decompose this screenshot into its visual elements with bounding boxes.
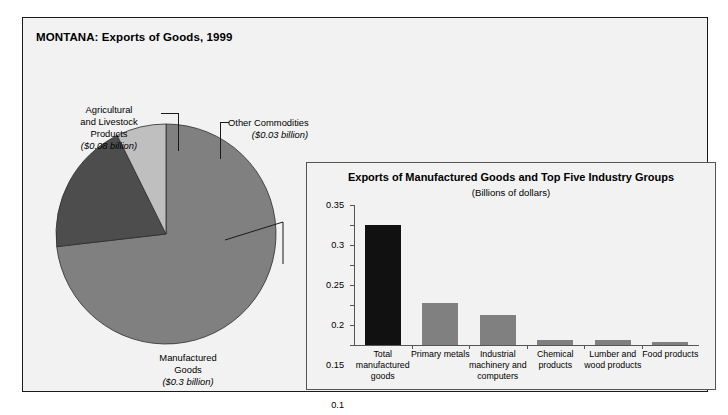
pie-label-manufactured-line1: Manufactured [159,352,216,363]
plot-area: 00.050.10.150.20.250.30.35 [354,205,699,345]
y-tick-label: 0.25 [326,280,344,290]
y-tick-label: 0.1 [331,400,344,410]
y-tick-label: 0.15 [326,360,344,370]
x-axis-label-line: Food products [642,349,698,359]
x-axis-label-line: products [538,360,572,370]
bar [365,225,401,345]
callout-connector [223,208,293,278]
inset-bar-chart: Exports of Manufactured Goods and Top Fi… [306,162,716,390]
pie-label-manufactured-line2: Goods [174,364,202,375]
x-axis-labels: TotalmanufacturedgoodsPrimary metalsIndu… [354,349,699,387]
x-axis-label-line: Industrial [480,349,516,359]
page-title: MONTANA: Exports of Goods, 1999 [36,31,233,43]
bar-series [354,205,699,345]
x-axis-label-line: Lumber and [589,349,636,359]
pie-label-other: Other Commodities ($0.03 billion) [228,117,344,141]
pie-label-agricultural-line3: Products [91,128,128,139]
y-tick-label: 0.35 [326,200,344,210]
pie-label-agricultural-line1: Agricultural [86,104,133,115]
x-axis-label-line: computers [477,371,518,381]
pie-label-agricultural-line2: and Livestock [80,116,137,127]
x-axis-label-line: Primary metals [411,349,470,359]
figure-root: MONTANA: Exports of Goods, 1999 Agricult… [0,0,728,415]
x-axis-label-line: goods [371,371,395,381]
bar [422,303,458,345]
pie-label-manufactured-value: ($0.3 billion) [121,376,255,388]
pie-label-other-value: ($0.03 billion) [228,129,332,141]
y-tick-label: 0.3 [331,240,344,250]
y-tick-label: 0.2 [331,320,344,330]
pie-label-agricultural: Agricultural and Livestock Products ($0.… [57,104,161,152]
pie-label-manufactured: Manufactured Goods ($0.3 billion) [121,352,255,388]
inset-chart-title: Exports of Manufactured Goods and Top Fi… [307,171,715,183]
x-axis-label-line: Total [373,349,392,359]
x-axis-label-line: machinery and [469,360,527,370]
pie-label-agricultural-value: ($0.08 billion) [57,140,161,152]
inset-chart-subtitle: (Billions of dollars) [307,187,715,198]
x-axis-label-line: manufactured [356,360,410,370]
bar [480,315,516,345]
pie-label-other-line1: Other Commodities [228,117,309,128]
bar [652,342,688,345]
bar [595,340,631,345]
x-axis-label-line: Chemical [537,349,574,359]
x-axis-label-line: wood products [584,360,641,370]
figure-frame: MONTANA: Exports of Goods, 1999 Agricult… [22,17,708,392]
bar [537,340,573,345]
y-tick: 0 [350,345,354,346]
x-axis-label: Food products [636,349,706,360]
